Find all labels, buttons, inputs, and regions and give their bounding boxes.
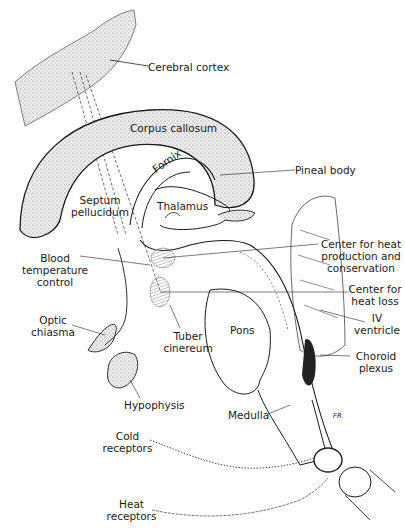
label-cerebral-cortex: Cerebral cortex (148, 61, 229, 73)
label-medulla: Medulla (228, 409, 269, 421)
label-hypophysis: Hypophysis (124, 399, 185, 411)
label-iv-ventricle: IV ventricle (352, 312, 402, 336)
label-heat-receptors: Heat receptors (104, 498, 159, 522)
cerebral-cortex-shape (15, 10, 136, 126)
label-heat-loss-center: Center for heat loss (346, 283, 404, 307)
label-pineal-body: Pineal body (295, 164, 356, 176)
label-pons: Pons (230, 324, 255, 336)
label-tuber-cinereum: Tuber cinereum (158, 330, 218, 354)
label-choroid-plexus: Choroid plexus (348, 350, 404, 374)
label-thalamus: Thalamus (157, 200, 208, 212)
label-blood-temperature-control: Blood temperature control (20, 252, 90, 288)
label-corpus-callosum: Corpus callosum (130, 122, 217, 134)
label-cold-receptors: Cold receptors (100, 430, 155, 454)
label-heat-production-center: Center for heat production and conservat… (316, 238, 405, 274)
label-optic-chiasma: Optic chiasma (28, 314, 78, 338)
label-septum-pellucidum: Septum pellucidum (70, 194, 130, 218)
cerebellum-shape (291, 196, 345, 356)
artist-signature: FR (333, 410, 342, 422)
